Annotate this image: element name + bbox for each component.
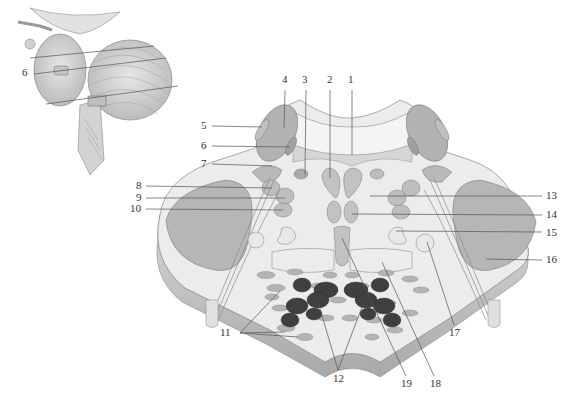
label-13: 13: [546, 190, 557, 201]
label-10: 10: [130, 203, 141, 214]
inset-brainstem: [18, 8, 178, 175]
label-12: 12: [333, 373, 344, 384]
label-18: 18: [430, 378, 441, 389]
label-17: 17: [449, 327, 460, 338]
label-6: 6: [201, 140, 207, 151]
label-5: 5: [201, 120, 207, 131]
label-4: 4: [282, 74, 288, 85]
label-7: 7: [201, 158, 207, 169]
label-1: 1: [348, 74, 354, 85]
pons-diagram: 6: [0, 0, 568, 401]
label-2: 2: [327, 74, 333, 85]
label-16: 16: [546, 254, 557, 265]
label-8: 8: [136, 180, 142, 191]
label-19: 19: [401, 378, 412, 389]
label-15: 15: [546, 227, 557, 238]
label-3: 3: [302, 74, 308, 85]
pons-cross-section: [157, 98, 536, 377]
label-11: 11: [220, 327, 231, 338]
inset-label-6: 6: [22, 66, 28, 78]
label-14: 14: [546, 209, 557, 220]
